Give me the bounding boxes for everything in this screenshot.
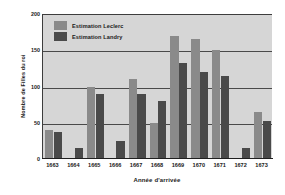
bar — [170, 36, 178, 159]
bar-group — [191, 15, 208, 159]
bar — [87, 87, 95, 160]
y-axis-tick-label: 50 — [24, 120, 40, 126]
bar — [200, 72, 208, 159]
x-axis-tick-label: 1673 — [255, 162, 267, 168]
legend-swatch-landry — [54, 32, 67, 41]
y-axis-tick-label: 100 — [24, 84, 40, 90]
x-axis-tick-label: 1666 — [109, 162, 121, 168]
bar — [116, 141, 124, 159]
plot-area: Estimation Leclerc Estimation Landry — [42, 14, 272, 159]
bar-group — [254, 15, 271, 159]
legend-item: Estimation Leclerc — [54, 21, 124, 30]
y-axis-tick-label: 0 — [24, 156, 40, 162]
x-axis-tick-label: 1671 — [213, 162, 225, 168]
bar-group — [212, 15, 229, 159]
x-axis-tick-label: 1669 — [172, 162, 184, 168]
bar-group — [150, 15, 167, 159]
legend: Estimation Leclerc Estimation Landry — [51, 19, 128, 43]
x-axis-tick-label: 1668 — [151, 162, 163, 168]
y-axis-tick-labels: 050100150200 — [24, 0, 40, 195]
bar — [54, 132, 62, 159]
legend-swatch-leclerc — [54, 21, 67, 30]
x-axis-tick-label: 1667 — [130, 162, 142, 168]
y-axis-tick-label: 200 — [24, 11, 40, 17]
x-axis-tick-label: 1670 — [193, 162, 205, 168]
bar — [137, 94, 145, 159]
x-axis-tick-label: 1665 — [88, 162, 100, 168]
bar — [96, 94, 104, 159]
legend-label-leclerc: Estimation Leclerc — [72, 23, 124, 29]
bar — [212, 50, 220, 159]
bar — [150, 123, 158, 159]
x-axis-tick-labels: 1663166416651666166716681669167016711672… — [42, 162, 272, 172]
bar — [191, 39, 199, 159]
x-axis-line — [42, 158, 273, 159]
bar — [263, 121, 271, 159]
bar — [158, 101, 166, 159]
bar — [179, 63, 187, 159]
bar — [45, 130, 53, 159]
x-axis-tick-label: 1672 — [234, 162, 246, 168]
bar — [254, 112, 262, 159]
bar-group — [233, 15, 250, 159]
bar — [221, 76, 229, 159]
bar-group — [129, 15, 146, 159]
x-axis-title: Année d'arrivée — [42, 177, 272, 183]
x-axis-tick-label: 1663 — [46, 162, 58, 168]
legend-item: Estimation Landry — [54, 32, 124, 41]
y-axis-tick-label: 150 — [24, 47, 40, 53]
bar-chart-figure: Nombre de Filles du roi 050100150200 Est… — [0, 0, 285, 195]
x-axis-tick-label: 1664 — [67, 162, 79, 168]
bar — [129, 79, 137, 159]
bar-group — [170, 15, 187, 159]
legend-label-landry: Estimation Landry — [72, 34, 123, 40]
